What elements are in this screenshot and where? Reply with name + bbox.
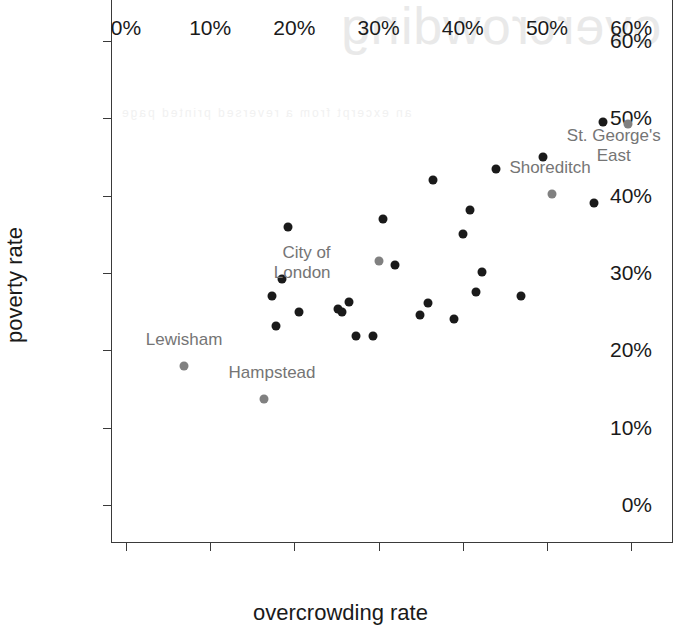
x-axis-tick-label: 0% (111, 16, 141, 40)
x-axis-tick (210, 542, 211, 551)
data-point (465, 206, 474, 215)
data-point (478, 267, 487, 276)
x-axis-tick (379, 542, 380, 551)
data-point (351, 332, 360, 341)
data-point (277, 275, 286, 284)
point-label-st-george-s-east: St. George's East (567, 126, 661, 166)
y-axis-tick (103, 273, 112, 274)
x-axis-tick (126, 542, 127, 551)
y-axis-tick (103, 505, 112, 506)
x-axis-tick-label: 40% (442, 16, 484, 40)
x-axis-tick-label: 20% (273, 16, 315, 40)
data-point (429, 176, 438, 185)
data-point-st-george-s-east (623, 119, 632, 128)
data-point (598, 118, 607, 127)
x-axis-tick (631, 542, 632, 551)
plot-area: 0%10%20%30%40%50%60%0%10%20%30%40%50%60%… (111, 0, 673, 543)
data-point (590, 198, 599, 207)
data-point (284, 222, 293, 231)
data-point (378, 214, 387, 223)
data-point-lewisham (180, 361, 189, 370)
y-axis-tick (103, 350, 112, 351)
data-point-hampstead (260, 395, 269, 404)
y-axis-tick-label: 0% (622, 493, 652, 517)
y-axis-tick (103, 41, 112, 42)
x-axis-tick (463, 542, 464, 551)
data-point (492, 164, 501, 173)
data-point (294, 307, 303, 316)
x-axis-tick-label: 50% (526, 16, 568, 40)
data-point (449, 315, 458, 324)
point-label-shoreditch: Shoreditch (509, 158, 590, 178)
data-point (415, 310, 424, 319)
data-point (271, 321, 280, 330)
y-axis-tick (103, 428, 112, 429)
y-axis-tick-label: 40% (610, 184, 652, 208)
data-point (391, 261, 400, 270)
data-point (458, 230, 467, 239)
y-axis-tick (103, 118, 112, 119)
data-point (268, 292, 277, 301)
x-axis-tick-label: 30% (358, 16, 400, 40)
data-point-shoreditch (548, 190, 557, 199)
y-axis-title: poverty rate (2, 135, 28, 435)
y-axis-tick (103, 196, 112, 197)
x-axis-tick-label: 60% (610, 16, 652, 40)
data-point-city-of-london (374, 257, 383, 266)
data-point (516, 292, 525, 301)
x-axis-title: overcrowding rate (0, 600, 681, 626)
data-point (338, 308, 347, 317)
data-point (424, 299, 433, 308)
data-point (368, 332, 377, 341)
x-axis-tick-label: 10% (189, 16, 231, 40)
x-axis-tick (294, 542, 295, 551)
y-axis-tick-label: 10% (610, 416, 652, 440)
scatter-plot-figure: overcrowding an excerpt from a reversed … (0, 0, 681, 637)
x-axis-tick (547, 542, 548, 551)
y-axis-tick-label: 20% (610, 338, 652, 362)
point-label-hampstead: Hampstead (229, 363, 316, 383)
y-axis-tick-label: 30% (610, 261, 652, 285)
data-point (472, 287, 481, 296)
point-label-lewisham: Lewisham (146, 330, 223, 350)
data-point (538, 153, 547, 162)
data-point (345, 298, 354, 307)
